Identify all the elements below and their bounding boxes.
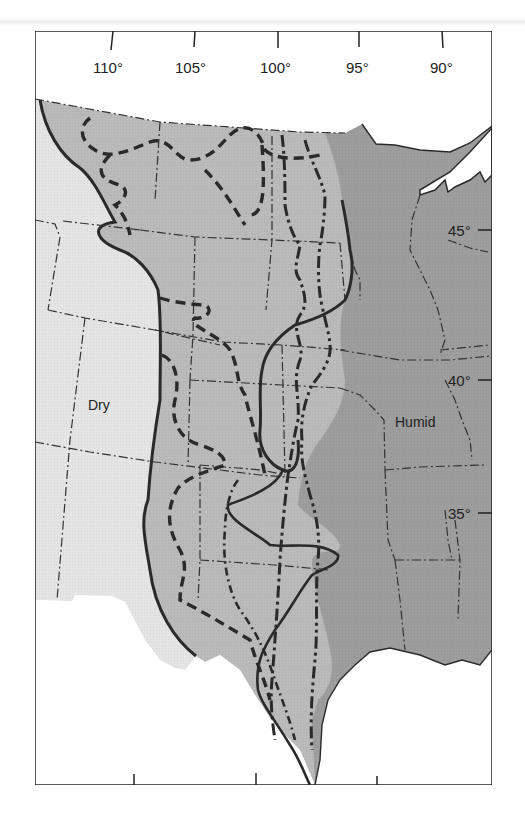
region-label-humid: Humid	[395, 414, 435, 430]
latitude-label-45: 45°	[448, 222, 471, 239]
longitude-label-100: 100°	[260, 59, 291, 76]
longitude-label-90: 90°	[430, 59, 453, 76]
region-label-dry: Dry	[88, 397, 110, 413]
longitude-label-110: 110°	[93, 59, 123, 76]
longitude-label-105: 105°	[175, 59, 206, 76]
latitude-label-35: 35°	[448, 505, 471, 522]
latitude-label-40: 40°	[448, 372, 471, 389]
map-figure: 110° 105° 100° 95° 90° 45° 40° 35° Dry H…	[0, 0, 525, 821]
longitude-label-95: 95°	[346, 59, 369, 76]
